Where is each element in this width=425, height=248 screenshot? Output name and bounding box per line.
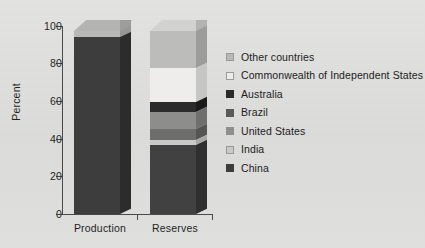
y-tick-label: 20 xyxy=(14,171,62,181)
y-tick-100: 100 xyxy=(0,26,62,27)
legend-label: China xyxy=(241,163,269,174)
chart-figure: 100 80 60 40 20 0 Percent Production Res… xyxy=(0,0,425,248)
x-category-separator xyxy=(137,214,138,220)
legend-swatch-icon xyxy=(226,146,234,154)
legend-swatch-icon xyxy=(226,109,234,117)
bar-segment-brazil[interactable] xyxy=(150,112,196,129)
bar-segment-united-states[interactable] xyxy=(150,129,196,140)
y-axis-line xyxy=(62,26,63,215)
y-tick-label: 100 xyxy=(14,21,62,31)
legend-swatch-icon xyxy=(226,53,234,61)
bar-top-cap xyxy=(74,20,120,31)
y-tick-label: 0 xyxy=(14,209,62,219)
legend-label: India xyxy=(241,144,264,155)
bar-segment-china[interactable] xyxy=(74,37,120,214)
legend-label: Other countries xyxy=(241,52,314,63)
bar-segment-other-countries[interactable] xyxy=(150,31,196,68)
legend-item-other-countries[interactable]: Other countries xyxy=(226,48,422,67)
bar-segment-china[interactable] xyxy=(150,145,196,214)
y-tick-20: 20 xyxy=(0,176,62,177)
bar-segment-commonwealth-of-independent-states[interactable] xyxy=(150,68,196,102)
legend-swatch-icon xyxy=(226,90,234,98)
legend-item-australia[interactable]: Australia xyxy=(226,85,422,104)
legend-item-india[interactable]: India xyxy=(226,141,422,160)
legend-swatch-icon xyxy=(226,72,234,80)
chart-legend: Other countries Commonwealth of Independ… xyxy=(226,48,422,178)
y-tick-0: 0 xyxy=(0,214,62,215)
legend-item-united-states[interactable]: United States xyxy=(226,122,422,141)
legend-label: Commonwealth of Independent States xyxy=(241,70,423,81)
legend-swatch-icon xyxy=(226,164,234,172)
x-category-label-reserves: Reserves xyxy=(130,222,220,234)
legend-item-brazil[interactable]: Brazil xyxy=(226,104,422,123)
legend-label: Australia xyxy=(241,89,283,100)
bar-top-cap xyxy=(150,20,196,31)
legend-swatch-icon xyxy=(226,127,234,135)
legend-item-commonwealth-of-independent-states[interactable]: Commonwealth of Independent States xyxy=(226,67,422,86)
x-axis-end-tick xyxy=(212,214,213,220)
legend-item-china[interactable]: China xyxy=(226,159,422,178)
bar-segment-australia[interactable] xyxy=(150,102,196,112)
y-axis-title: Percent xyxy=(10,62,22,142)
legend-label: Brazil xyxy=(241,107,268,118)
legend-label: United States xyxy=(241,126,305,137)
